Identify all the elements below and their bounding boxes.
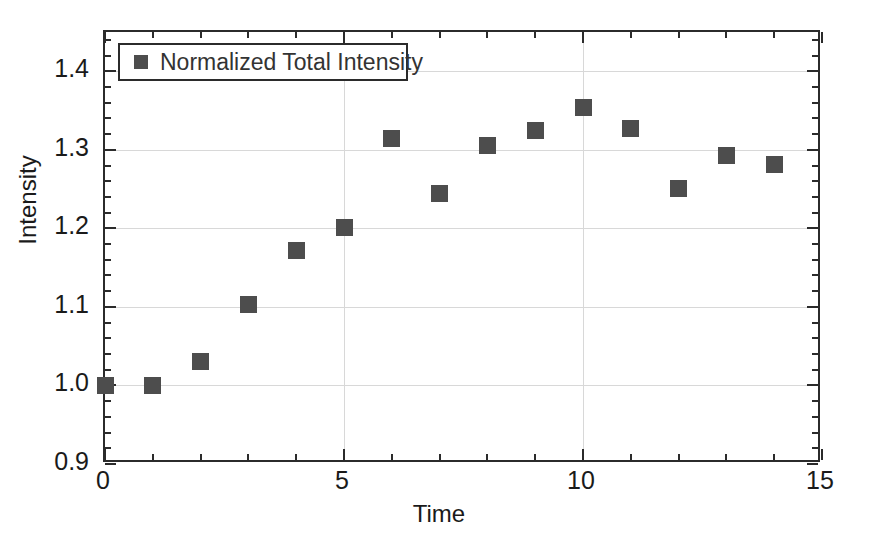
x-axis-minor-tick — [678, 454, 680, 460]
y-axis-tick — [807, 149, 818, 151]
y-tick-label: 1.1 — [19, 292, 89, 317]
x-axis-minor-tick — [295, 454, 297, 460]
y-axis-minor-tick — [812, 353, 818, 355]
x-axis-minor-tick — [486, 32, 488, 38]
x-axis-minor-tick — [200, 454, 202, 460]
y-axis-minor-tick — [812, 259, 818, 261]
y-axis-minor-tick — [812, 337, 818, 339]
y-axis-minor-tick — [812, 290, 818, 292]
y-axis-minor-tick — [105, 369, 111, 371]
y-axis-title: Intensity — [14, 110, 42, 290]
y-axis-tick — [105, 149, 116, 151]
x-axis-tick — [343, 449, 345, 460]
y-axis-minor-tick — [812, 432, 818, 434]
y-tick-label: 1.0 — [19, 370, 89, 395]
data-point-marker — [479, 137, 496, 154]
data-point-marker — [622, 120, 639, 137]
gridline-horizontal — [105, 150, 818, 151]
x-axis-tick — [821, 32, 823, 43]
y-axis-minor-tick — [812, 102, 818, 104]
data-point-marker — [192, 353, 209, 370]
y-axis-minor-tick — [812, 117, 818, 119]
y-axis-minor-tick — [105, 165, 111, 167]
x-tick-label: 15 — [785, 468, 855, 493]
x-tick-label: 0 — [68, 468, 138, 493]
y-axis-tick — [807, 227, 818, 229]
x-axis-tick — [582, 32, 584, 43]
x-axis-minor-tick — [200, 32, 202, 38]
gridline-horizontal — [105, 385, 818, 386]
data-point-marker — [718, 147, 735, 164]
x-axis-minor-tick — [725, 32, 727, 38]
y-tick-label: 1.4 — [19, 56, 89, 81]
y-axis-minor-tick — [812, 369, 818, 371]
x-axis-minor-tick — [486, 454, 488, 460]
x-tick-label: 10 — [546, 468, 616, 493]
x-axis-minor-tick — [247, 32, 249, 38]
plot-area — [103, 30, 820, 462]
data-point-marker — [288, 242, 305, 259]
chart-figure: 0.9 1.0 1.1 1.2 1.3 1.4 0 5 10 15 Time I… — [0, 0, 878, 548]
y-axis-minor-tick — [812, 447, 818, 449]
y-axis-minor-tick — [105, 290, 111, 292]
y-axis-tick — [105, 306, 116, 308]
x-axis-minor-tick — [439, 32, 441, 38]
legend-marker-icon — [134, 55, 148, 69]
y-axis-tick — [807, 463, 818, 465]
x-axis-minor-tick — [534, 32, 536, 38]
x-axis-minor-tick — [534, 454, 536, 460]
y-axis-minor-tick — [812, 322, 818, 324]
y-axis-tick — [807, 384, 818, 386]
data-point-marker — [527, 122, 544, 139]
x-tick-label: 5 — [307, 468, 377, 493]
y-axis-minor-tick — [105, 416, 111, 418]
data-point-marker — [766, 156, 783, 173]
y-axis-minor-tick — [812, 196, 818, 198]
y-axis-minor-tick — [812, 55, 818, 57]
y-axis-minor-tick — [105, 102, 111, 104]
x-axis-minor-tick — [439, 454, 441, 460]
legend-label: Normalized Total Intensity — [160, 49, 423, 76]
y-axis-minor-tick — [105, 432, 111, 434]
gridline-vertical — [344, 32, 345, 460]
data-point-marker — [336, 219, 353, 236]
y-axis-minor-tick — [105, 400, 111, 402]
gridline-vertical — [583, 32, 584, 460]
y-axis-minor-tick — [105, 322, 111, 324]
chart-legend: Normalized Total Intensity — [118, 43, 408, 81]
x-axis-tick — [582, 449, 584, 460]
y-axis-tick — [807, 306, 818, 308]
y-axis-tick — [105, 463, 116, 465]
y-axis-minor-tick — [105, 180, 111, 182]
x-axis-minor-tick — [773, 454, 775, 460]
x-axis-minor-tick — [152, 32, 154, 38]
x-axis-title: Time — [0, 500, 878, 528]
y-axis-minor-tick — [812, 165, 818, 167]
y-axis-minor-tick — [812, 212, 818, 214]
data-point-marker — [431, 185, 448, 202]
y-axis-minor-tick — [105, 259, 111, 261]
data-point-marker — [670, 180, 687, 197]
y-axis-minor-tick — [812, 39, 818, 41]
gridline-horizontal — [105, 307, 818, 308]
y-axis-tick — [105, 70, 116, 72]
y-axis-minor-tick — [812, 274, 818, 276]
y-axis-minor-tick — [105, 196, 111, 198]
data-point-marker — [383, 130, 400, 147]
data-point-marker — [97, 377, 114, 394]
x-axis-minor-tick — [391, 32, 393, 38]
y-axis-minor-tick — [105, 55, 111, 57]
x-axis-minor-tick — [295, 32, 297, 38]
y-axis-minor-tick — [105, 353, 111, 355]
gridline-horizontal — [105, 228, 818, 229]
x-axis-tick — [104, 32, 106, 43]
y-axis-minor-tick — [812, 400, 818, 402]
x-axis-tick — [104, 449, 106, 460]
y-axis-minor-tick — [105, 274, 111, 276]
x-axis-minor-tick — [391, 454, 393, 460]
x-axis-minor-tick — [678, 32, 680, 38]
data-point-marker — [575, 99, 592, 116]
y-axis-minor-tick — [812, 180, 818, 182]
y-axis-minor-tick — [812, 416, 818, 418]
x-axis-minor-tick — [725, 454, 727, 460]
